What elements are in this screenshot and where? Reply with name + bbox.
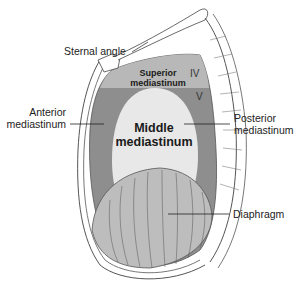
anterior-label-line1: Anterior xyxy=(6,106,66,118)
superior-label-line1: Superior xyxy=(118,68,198,78)
vertebra-iv-label: IV xyxy=(190,68,199,79)
superior-mediastinum-label: Superior mediastinum xyxy=(118,68,198,88)
superior-label-line2: mediastinum xyxy=(118,78,198,88)
posterior-label-line2: mediastinum xyxy=(234,124,294,136)
posterior-mediastinum-label: Posterior mediastinum xyxy=(234,112,294,136)
sternal-angle-label: Sternal angle xyxy=(64,45,126,57)
vertebra-v-label: V xyxy=(196,91,203,102)
middle-label-line2: mediastinum xyxy=(112,135,196,149)
middle-mediastinum-label: Middle mediastinum xyxy=(112,121,196,149)
anterior-label-line2: mediastinum xyxy=(6,118,66,130)
middle-label-line1: Middle xyxy=(112,121,196,135)
anterior-mediastinum-label: Anterior mediastinum xyxy=(6,106,66,130)
first-rib xyxy=(116,9,208,60)
posterior-label-line1: Posterior xyxy=(234,112,294,124)
diaphragm-label: Diaphragm xyxy=(233,208,284,220)
